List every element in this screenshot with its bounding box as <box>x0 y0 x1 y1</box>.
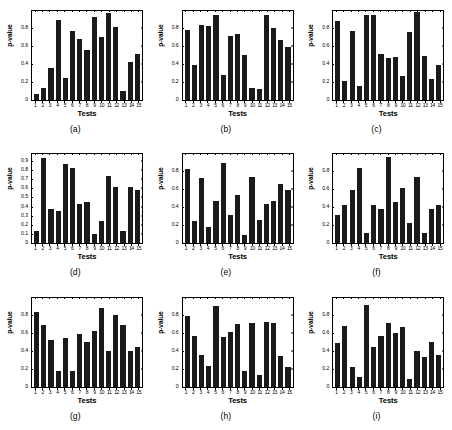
tick-mark <box>138 297 139 299</box>
y-tick-label: 0.2 <box>172 223 179 228</box>
bar <box>285 190 290 243</box>
y-axis-label-a: p-value <box>6 6 13 66</box>
bar <box>84 342 89 387</box>
tick-mark <box>291 207 293 208</box>
tick-mark <box>124 297 125 299</box>
bar <box>221 163 226 243</box>
y-tick-label: 0.9 <box>21 158 28 163</box>
tick-mark <box>42 153 43 155</box>
bar <box>242 235 247 243</box>
bar-series-d <box>32 154 142 243</box>
tick-mark <box>141 82 143 83</box>
tick-mark <box>410 153 411 155</box>
bar <box>34 94 39 100</box>
y-tick-label: 0.4 <box>322 61 329 66</box>
bar <box>422 233 427 244</box>
bar <box>350 31 355 100</box>
y-tick-label: 0.8 <box>172 169 179 174</box>
panel-caption-d: (d) <box>0 267 151 277</box>
tick-mark <box>274 10 275 12</box>
tick-mark <box>259 297 260 299</box>
bar <box>199 178 204 243</box>
tick-mark <box>282 153 283 155</box>
right-axis-ticks-h <box>291 297 293 388</box>
bar <box>278 40 283 100</box>
y-axis-b: 0.20.40.60.80 <box>151 10 182 101</box>
y-tick-mark <box>31 333 33 334</box>
tick-mark <box>282 10 283 12</box>
figure-grid: 0.20.40.60.80p-value12345678910111213141… <box>0 0 452 430</box>
bar <box>185 30 190 100</box>
bar <box>414 351 419 387</box>
bar <box>213 15 218 100</box>
bar <box>221 75 226 100</box>
bar <box>63 338 68 387</box>
panel-caption-i: (i) <box>301 411 452 421</box>
y-tick-label-zero: 0 <box>326 97 329 102</box>
y-tick-label: 0.8 <box>172 312 179 317</box>
y-tick-label: 0.6 <box>172 43 179 48</box>
right-axis-ticks-b <box>291 10 293 101</box>
tick-mark <box>141 332 143 333</box>
tick-mark <box>252 10 253 12</box>
tick-mark <box>417 153 418 155</box>
bar <box>400 327 405 387</box>
y-tick-label: 0.4 <box>172 205 179 210</box>
tick-mark <box>185 297 186 299</box>
tick-mark <box>373 153 374 155</box>
tick-mark <box>141 179 143 180</box>
y-tick-mark <box>332 171 334 172</box>
bar <box>378 54 383 100</box>
bar <box>278 356 283 386</box>
x-axis-label-e: Tests <box>182 252 294 261</box>
y-tick-mark <box>182 315 184 316</box>
panel-caption-f: (f) <box>301 267 452 277</box>
tick-mark <box>291 46 293 47</box>
y-tick-mark <box>182 369 184 370</box>
y-tick-mark <box>182 207 184 208</box>
plot-area-i <box>332 297 444 388</box>
tick-mark <box>72 297 73 299</box>
bar <box>84 202 89 244</box>
tick-mark <box>365 153 366 155</box>
y-tick-label: 0.6 <box>322 187 329 192</box>
tick-mark <box>442 82 444 83</box>
y-tick-label: 0.2 <box>322 79 329 84</box>
bar <box>407 32 412 100</box>
tick-mark <box>417 10 418 12</box>
tick-mark <box>402 297 403 299</box>
bar <box>378 209 383 243</box>
tick-mark <box>291 82 293 83</box>
y-tick-label: 0.2 <box>21 222 28 227</box>
bar <box>63 78 68 100</box>
plot-area-d <box>31 153 143 244</box>
y-tick-mark <box>31 197 33 198</box>
y-tick-mark <box>31 207 33 208</box>
right-axis-ticks-i <box>442 297 444 388</box>
right-axis-ticks-a <box>141 10 143 101</box>
top-axis-ticks-a <box>31 10 143 12</box>
tick-mark <box>289 153 290 155</box>
tick-mark <box>274 153 275 155</box>
plot-area-c <box>332 10 444 101</box>
bar <box>357 377 362 387</box>
bar <box>264 322 269 387</box>
tick-mark <box>124 10 125 12</box>
tick-mark <box>72 153 73 155</box>
bar <box>422 56 427 101</box>
y-tick-mark <box>182 64 184 65</box>
bar <box>84 50 89 100</box>
tick-mark <box>373 10 374 12</box>
tick-mark <box>185 10 186 12</box>
bar <box>400 188 405 243</box>
tick-mark <box>291 28 293 29</box>
tick-mark <box>109 153 110 155</box>
tick-mark <box>193 10 194 12</box>
bar <box>364 233 369 244</box>
bar <box>335 215 340 243</box>
tick-mark <box>101 10 102 12</box>
bar <box>34 231 39 244</box>
y-tick-mark <box>182 225 184 226</box>
bar <box>342 326 347 387</box>
tick-mark <box>57 10 58 12</box>
